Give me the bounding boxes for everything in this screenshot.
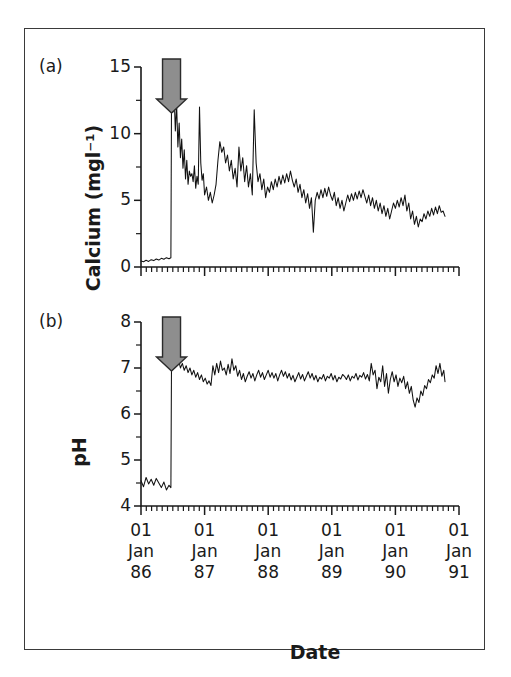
date-tick-day: 01: [363, 520, 427, 541]
ph-axis-lines: [141, 322, 459, 506]
date-tick-month: Jan: [236, 541, 300, 562]
ph-series-line: [141, 357, 445, 490]
date-tick-day: 01: [300, 520, 364, 541]
liming-arrow-panel-a: [157, 59, 187, 113]
date-tick-year: 88: [236, 562, 300, 583]
date-tick-label: 01Jan87: [173, 520, 237, 583]
date-tick-day: 01: [173, 520, 237, 541]
date-tick-day: 01: [427, 520, 491, 541]
date-tick-year: 87: [173, 562, 237, 583]
date-tick-month: Jan: [300, 541, 364, 562]
date-tick-label: 01Jan89: [300, 520, 364, 583]
date-tick-label: 01Jan90: [363, 520, 427, 583]
date-tick-label: 01Jan86: [109, 520, 173, 583]
figure-frame: (a) (b) Calcium (mgl⁻¹) pH Date 051015 4…: [24, 28, 485, 650]
calcium-axis-lines: [141, 67, 459, 267]
date-tick-year: 91: [427, 562, 491, 583]
date-tick-day: 01: [109, 520, 173, 541]
calcium-tick-label: 0: [79, 256, 131, 276]
ph-tick-label: 5: [79, 449, 131, 469]
liming-arrow-panel-b: [157, 317, 187, 371]
date-tick-year: 90: [363, 562, 427, 583]
ph-tick-label: 8: [79, 311, 131, 331]
date-tick-month: Jan: [173, 541, 237, 562]
calcium-tick-label: 5: [79, 189, 131, 209]
ph-tick-label: 4: [79, 495, 131, 515]
date-tick-label: 01Jan91: [427, 520, 491, 583]
date-tick-label: 01Jan88: [236, 520, 300, 583]
calcium-tick-label: 10: [79, 123, 131, 143]
date-tick-day: 01: [236, 520, 300, 541]
date-tick-month: Jan: [427, 541, 491, 562]
ph-tick-label: 7: [79, 357, 131, 377]
date-tick-month: Jan: [363, 541, 427, 562]
date-tick-month: Jan: [109, 541, 173, 562]
ph-tick-label: 6: [79, 403, 131, 423]
date-tick-year: 86: [109, 562, 173, 583]
date-tick-year: 89: [300, 562, 364, 583]
calcium-series-line: [141, 94, 445, 262]
calcium-tick-label: 15: [79, 56, 131, 76]
